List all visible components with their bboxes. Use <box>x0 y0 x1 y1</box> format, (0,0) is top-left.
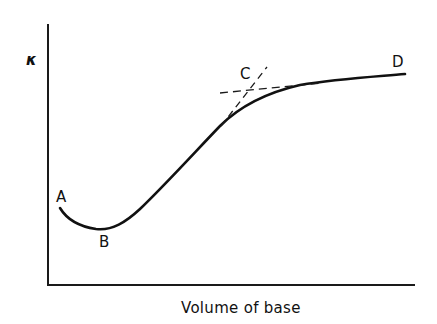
x-axis-label: Volume of base <box>181 301 301 316</box>
titration-chart <box>0 0 437 324</box>
point-label-d: D <box>392 55 404 70</box>
point-label-c: C <box>240 67 250 82</box>
point-label-a: A <box>56 190 66 205</box>
conductivity-curve <box>60 74 405 229</box>
point-label-b: B <box>99 235 109 250</box>
y-axis-label: κ <box>26 53 37 68</box>
